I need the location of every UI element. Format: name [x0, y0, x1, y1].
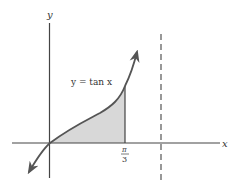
curve-label: y = tan x: [70, 77, 112, 87]
x-axis-label: x: [222, 138, 228, 149]
tan-area-diagram: y x y = tan x π 3: [0, 0, 239, 187]
y-axis-label: y: [46, 9, 53, 20]
tick-label-numerator: π: [121, 146, 127, 154]
tick-label-denominator: 3: [122, 155, 127, 164]
